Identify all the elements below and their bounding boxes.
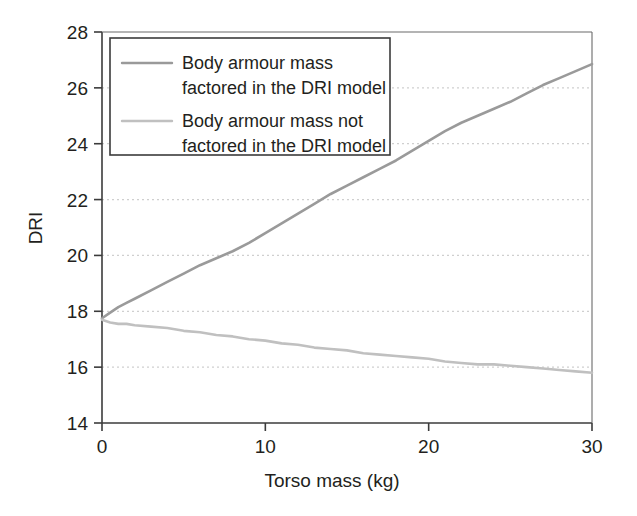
legend-label-series-1-line-2: factored in the DRI model <box>182 78 386 98</box>
y-tick-label-14: 14 <box>67 413 89 434</box>
x-tick-group: 0102030 <box>97 423 603 457</box>
legend-label-series-1-line-1: Body armour mass <box>182 53 333 73</box>
legend-label-series-2-line-1: Body armour mass not <box>182 111 363 131</box>
legend: Body armour mass factored in the DRI mod… <box>110 38 390 156</box>
x-tick-label-10: 10 <box>255 436 276 457</box>
x-axis-title: Torso mass (kg) <box>264 470 399 491</box>
line-chart: 1416182022242628 0102030 Torso mass (kg)… <box>0 0 637 516</box>
y-axis-title: DRI <box>25 212 46 245</box>
y-tick-label-22: 22 <box>67 190 88 211</box>
y-tick-label-24: 24 <box>67 134 89 155</box>
x-tick-label-0: 0 <box>97 436 108 457</box>
series-line-2 <box>102 320 592 373</box>
legend-label-series-2-line-2: factored in the DRI model <box>182 136 386 156</box>
chart-container: 1416182022242628 0102030 Torso mass (kg)… <box>0 0 637 516</box>
y-tick-label-28: 28 <box>67 22 88 43</box>
y-tick-label-26: 26 <box>67 78 88 99</box>
y-tick-label-16: 16 <box>67 357 88 378</box>
y-tick-label-20: 20 <box>67 245 88 266</box>
x-tick-label-20: 20 <box>418 436 439 457</box>
y-tick-group: 1416182022242628 <box>67 22 102 434</box>
y-tick-label-18: 18 <box>67 301 88 322</box>
x-tick-label-30: 30 <box>581 436 602 457</box>
